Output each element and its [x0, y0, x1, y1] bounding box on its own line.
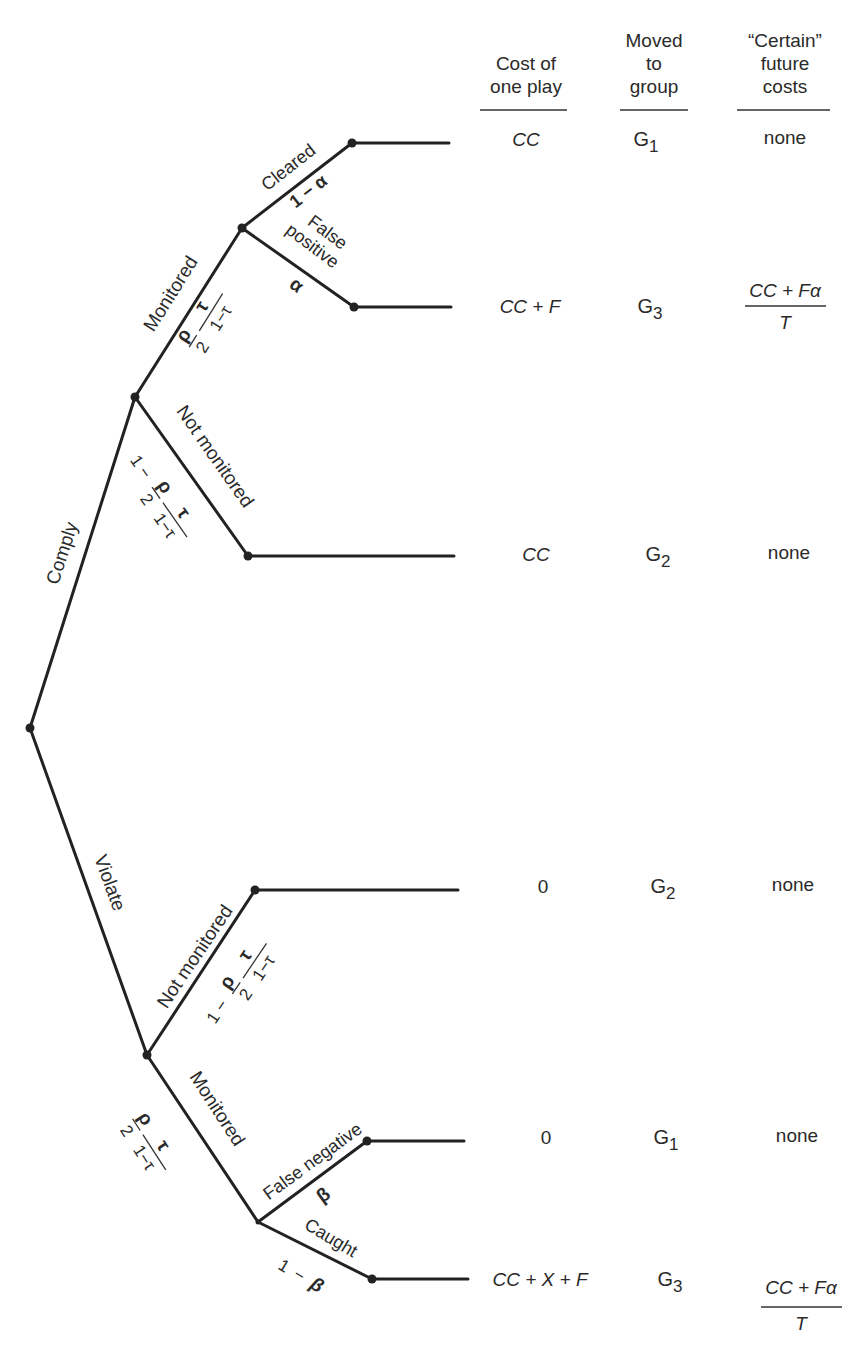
- probability-caught: 1 − β: [275, 1254, 328, 1297]
- svg-text:T: T: [795, 1313, 808, 1334]
- violate-node: [143, 1051, 152, 1060]
- cost-value: CC + X + F: [492, 1269, 588, 1290]
- svg-text:τ: τ: [190, 297, 213, 316]
- root-node: [26, 724, 35, 733]
- violate-monitored-node: [256, 1220, 261, 1225]
- group-value: G2: [645, 543, 670, 571]
- outcome-row: CC G2 none: [522, 542, 810, 571]
- outcome-row: CC G1 none: [512, 127, 806, 156]
- column-header-group: Moved to group: [620, 30, 688, 110]
- future-cost-value: none: [768, 542, 810, 563]
- outcome-row: 0 G1 none: [541, 1125, 818, 1154]
- svg-text:2: 2: [116, 1122, 137, 1140]
- future-cost-value: none: [764, 127, 806, 148]
- outcome-row: 0 G2 none: [538, 874, 814, 903]
- group-value: G1: [633, 128, 658, 156]
- future-cost-value: none: [772, 874, 814, 895]
- cost-value: 0: [541, 1127, 552, 1148]
- svg-text:2: 2: [235, 985, 256, 1003]
- decision-tree-diagram: Cost of one play Moved to group “Certain…: [0, 0, 866, 1355]
- cost-value: CC: [522, 544, 550, 565]
- svg-text:to: to: [646, 53, 662, 74]
- svg-text:−: −: [290, 1265, 308, 1286]
- future-cost-fraction: CC + Fα T: [761, 1277, 842, 1334]
- svg-text:one play: one play: [490, 76, 562, 97]
- svg-text:τ: τ: [152, 1136, 175, 1155]
- svg-text:Cost of: Cost of: [496, 53, 557, 74]
- svg-text:CC + Fα: CC + Fα: [749, 280, 822, 301]
- branch-label-monitored: Monitored: [186, 1067, 250, 1149]
- leaf-node: [348, 139, 357, 148]
- comply-monitored-node: [238, 224, 247, 233]
- column-header-future-costs: “Certain” future costs: [737, 30, 830, 110]
- branch-label-false-positive: False positive: [282, 203, 355, 272]
- svg-text:1 −: 1 −: [126, 452, 155, 483]
- cost-value: CC + F: [500, 296, 562, 317]
- svg-text:costs: costs: [763, 76, 807, 97]
- branch-label-not-monitored: Not monitored: [153, 901, 237, 1012]
- svg-text:2: 2: [136, 490, 157, 509]
- leaf-node: [350, 303, 359, 312]
- branch-label-caught: Caught: [301, 1214, 361, 1261]
- outcome-row: CC + F G3 CC + Fα T: [500, 280, 826, 333]
- group-value: G2: [650, 875, 675, 903]
- svg-text:1 −: 1 −: [203, 996, 232, 1027]
- svg-text:τ: τ: [173, 503, 195, 522]
- comply-node: [131, 393, 140, 402]
- svg-text:τ: τ: [234, 945, 256, 964]
- svg-text:β: β: [306, 1272, 328, 1297]
- leaf-node: [368, 1275, 377, 1284]
- cost-value: 0: [538, 876, 549, 897]
- svg-text:CC + Fα: CC + Fα: [765, 1277, 838, 1298]
- column-header-cost: Cost of one play: [480, 53, 567, 110]
- probability-false-negative: β: [312, 1183, 334, 1207]
- svg-text:future: future: [761, 53, 810, 74]
- probability-not-monitored: 1 − ρ 2 τ 1−τ: [115, 446, 205, 549]
- edge-comply: [30, 397, 135, 728]
- tree-edges: [30, 143, 468, 1279]
- cost-value: CC: [512, 129, 540, 150]
- branch-label-comply: Comply: [42, 519, 82, 587]
- outcome-row: CC + X + F G3 CC + Fα T: [492, 1268, 842, 1334]
- branch-label-violate: Violate: [90, 852, 129, 913]
- edge-violate-not-monitored: [147, 890, 255, 1055]
- future-cost-fraction: CC + Fα T: [745, 280, 826, 333]
- svg-text:“Certain”: “Certain”: [748, 30, 822, 51]
- group-value: G3: [657, 1268, 682, 1296]
- leaf-node: [244, 552, 253, 561]
- svg-text:Moved: Moved: [625, 30, 682, 51]
- svg-text:T: T: [779, 312, 792, 333]
- future-cost-value: none: [776, 1125, 818, 1146]
- branch-label-monitored: Monitored: [139, 252, 202, 335]
- edge-violate: [30, 728, 147, 1055]
- probability-false-positive: α: [286, 273, 308, 297]
- group-value: G3: [637, 295, 662, 323]
- svg-text:1: 1: [275, 1255, 293, 1276]
- branch-label-not-monitored: Not monitored: [172, 401, 258, 511]
- group-value: G1: [653, 1126, 678, 1154]
- svg-text:group: group: [630, 76, 679, 97]
- leaf-node: [251, 886, 260, 895]
- probability-monitored: ρ 2 τ 1−τ: [115, 1107, 184, 1182]
- leaf-node: [363, 1137, 372, 1146]
- svg-text:2: 2: [192, 338, 213, 356]
